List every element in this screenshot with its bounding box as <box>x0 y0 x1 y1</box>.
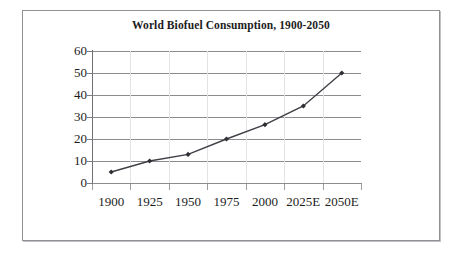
x-axis-tick <box>246 184 247 190</box>
y-axis-tick <box>87 117 93 118</box>
y-axis-tick-label: 60 <box>47 44 87 57</box>
series-line <box>111 73 342 172</box>
y-axis-tick-label: 20 <box>47 132 87 145</box>
x-axis-tick-label: 1925 <box>137 194 163 210</box>
data-point-marker <box>262 122 267 127</box>
y-axis-tick <box>87 139 93 140</box>
x-axis-tick-label: 2050E <box>325 194 359 210</box>
data-point-marker <box>147 158 152 163</box>
figure-frame: World Biofuel Consumption, 1900-2050 010… <box>22 10 440 241</box>
x-axis-tick-label: 1950 <box>175 194 201 210</box>
data-point-marker <box>224 136 229 141</box>
x-axis-tick <box>361 184 362 190</box>
x-axis-tick-label: 2025E <box>286 194 320 210</box>
x-axis-tick <box>323 184 324 190</box>
y-axis-tick <box>87 161 93 162</box>
x-axis-labels: 190019251950197520002025E2050E <box>92 194 362 214</box>
data-point-marker <box>109 169 114 174</box>
y-axis-tick-label: 10 <box>47 154 87 167</box>
y-axis-labels: 0102030405060 <box>39 11 87 242</box>
x-axis-tick <box>169 184 170 190</box>
x-axis-tick-label: 2000 <box>252 194 278 210</box>
x-axis-line <box>92 183 362 184</box>
y-axis-tick-label: 0 <box>47 176 87 189</box>
y-axis-tick-label: 40 <box>47 88 87 101</box>
y-axis-tick <box>87 95 93 96</box>
x-axis-tick <box>284 184 285 190</box>
x-axis-tick-label: 1975 <box>214 194 240 210</box>
x-axis-tick <box>92 184 93 190</box>
line-series <box>92 51 361 183</box>
y-axis-tick-label: 30 <box>47 110 87 123</box>
x-axis-tick <box>207 184 208 190</box>
x-axis-tick-label: 1900 <box>98 194 124 210</box>
x-axis-tick <box>130 184 131 190</box>
y-axis-tick-label: 50 <box>47 66 87 79</box>
y-axis-tick <box>87 51 93 52</box>
data-point-marker <box>185 152 190 157</box>
y-axis-tick <box>87 73 93 74</box>
